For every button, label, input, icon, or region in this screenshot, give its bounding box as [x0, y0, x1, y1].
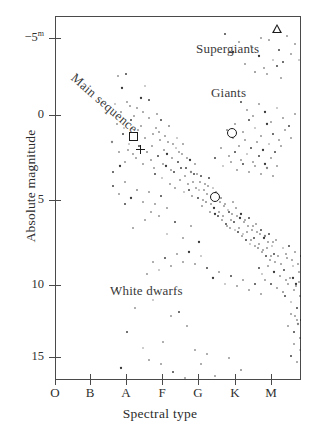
- annotation-white-dwarfs: White dwarfs: [110, 283, 183, 299]
- y-tick-label--5: −5m: [24, 31, 44, 44]
- annotation-supergiants: Supergiants: [196, 41, 259, 57]
- x-tick-label-K: K: [223, 386, 247, 399]
- x-tick-label-F: F: [150, 386, 174, 399]
- main-sequence-cross-marker: [136, 145, 145, 154]
- x-tick-label-A: A: [114, 386, 138, 399]
- y-axis-title: Absolute magnitude: [23, 86, 39, 286]
- giant-marker: [227, 128, 237, 138]
- highlight-markers: [55, 16, 301, 380]
- x-tick-label-G: G: [186, 386, 210, 399]
- main-sequence-mid-marker: [210, 192, 220, 202]
- x-tick-label-O: O: [43, 386, 67, 399]
- hr-diagram: −5m051015 OBAFGKM Absolute magnitude Spe…: [0, 0, 320, 431]
- x-tick-label-B: B: [78, 386, 102, 399]
- x-tick-label-M: M: [259, 386, 283, 399]
- y-tick-label-15: 15: [32, 350, 45, 363]
- annotation-giants: Giants: [211, 85, 246, 101]
- supergiant-marker: [272, 24, 282, 33]
- x-axis-title: Spectral type: [0, 406, 320, 422]
